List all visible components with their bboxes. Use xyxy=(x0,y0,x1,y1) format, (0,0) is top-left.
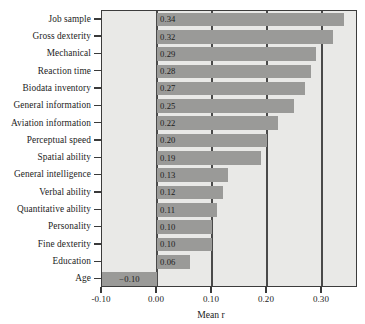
horizontal-bar-chart: Job sampleGross dexterityMechanicalReact… xyxy=(0,0,365,324)
category-tick-14: Education xyxy=(0,252,93,269)
x-tick-label: 0.10 xyxy=(203,294,219,305)
category-tick-15: Age xyxy=(0,270,93,287)
category-axis: Job sampleGross dexterityMechanicalReact… xyxy=(0,10,93,287)
x-tick-4 xyxy=(320,287,321,293)
bar-row: 0.25 xyxy=(102,98,356,115)
bar-row: 0.11 xyxy=(102,201,356,218)
category-tick-3: Reaction time xyxy=(0,62,93,79)
category-tick-10: Verbal ability xyxy=(0,183,93,200)
bar xyxy=(157,99,294,113)
bar-value-label: 0.10 xyxy=(160,238,175,250)
bar-value-label: 0.13 xyxy=(160,169,175,181)
category-tick-12: Personality xyxy=(0,218,93,235)
bar-row: 0.12 xyxy=(102,184,356,201)
category-label: Education xyxy=(52,256,93,266)
bar-value-label: 0.11 xyxy=(160,204,175,216)
bar-value-label: 0.20 xyxy=(160,134,175,146)
category-tick-4: Biodata inventory xyxy=(0,79,93,96)
x-tick-label: 0.20 xyxy=(258,294,274,305)
bar-row: 0.13 xyxy=(102,167,356,184)
bar xyxy=(157,47,316,61)
bar xyxy=(157,65,311,79)
bar xyxy=(157,30,333,44)
bar-value-label: 0.34 xyxy=(160,13,175,25)
category-tick-7: Perceptual speed xyxy=(0,131,93,148)
category-tick-8: Spatial ability xyxy=(0,149,93,166)
bar-row: 0.06 xyxy=(102,253,356,270)
category-label: Age xyxy=(75,273,93,283)
bar xyxy=(157,13,344,27)
category-label: Job sample xyxy=(48,14,93,24)
bar-row: 0.20 xyxy=(102,132,356,149)
category-label: General intelligence xyxy=(14,169,93,179)
bar-value-label: 0.19 xyxy=(160,152,175,164)
bar-value-label: 0.12 xyxy=(160,186,175,198)
category-label: Reaction time xyxy=(38,66,93,76)
bar-value-label: 0.10 xyxy=(160,221,175,233)
bar-value-label: −0.10 xyxy=(119,273,139,285)
category-label: Mechanical xyxy=(47,48,93,58)
category-tick-13: Fine dexterity xyxy=(0,235,93,252)
category-tick-2: Mechanical xyxy=(0,45,93,62)
category-tick-6: Aviation information xyxy=(0,114,93,131)
bar-row: 0.29 xyxy=(102,46,356,63)
category-label: Biodata inventory xyxy=(22,83,93,93)
category-label: Personality xyxy=(48,221,93,231)
bar-row: 0.32 xyxy=(102,28,356,45)
bar-value-label: 0.32 xyxy=(160,31,175,43)
bar-value-label: 0.28 xyxy=(160,65,175,77)
category-tick-1: Gross dexterity xyxy=(0,27,93,44)
bar xyxy=(157,82,305,96)
x-tick-3 xyxy=(265,287,266,293)
x-axis-title: Mean r xyxy=(197,309,224,321)
x-tick-label: -0.10 xyxy=(91,294,110,305)
category-label: Quantitative ability xyxy=(17,204,93,214)
category-label: Fine dexterity xyxy=(38,239,93,249)
bar-row: 0.22 xyxy=(102,115,356,132)
plot-area: 0.340.320.290.280.270.250.220.200.190.13… xyxy=(101,10,357,287)
category-label: Verbal ability xyxy=(39,187,93,197)
category-label: Spatial ability xyxy=(38,152,93,162)
bar-row: 0.27 xyxy=(102,80,356,97)
bar-value-label: 0.25 xyxy=(160,100,175,112)
bar-value-label: 0.29 xyxy=(160,48,175,60)
category-label: Aviation information xyxy=(11,118,93,128)
bar-row: 0.19 xyxy=(102,150,356,167)
bar-value-label: 0.27 xyxy=(160,82,175,94)
x-tick-label: 0.00 xyxy=(148,294,164,305)
bar-row: 0.10 xyxy=(102,236,356,253)
category-tick-9: General intelligence xyxy=(0,166,93,183)
x-axis: Mean r -0.100.000.100.200.30 xyxy=(101,287,357,323)
category-label: General information xyxy=(13,100,93,110)
category-tick-5: General information xyxy=(0,97,93,114)
bar-row: 0.34 xyxy=(102,11,356,28)
bar-row: 0.10 xyxy=(102,219,356,236)
x-tick-2 xyxy=(210,287,211,293)
bar-value-label: 0.22 xyxy=(160,117,175,129)
category-tick-0: Job sample xyxy=(0,10,93,27)
category-label: Gross dexterity xyxy=(32,31,93,41)
x-tick-0 xyxy=(100,287,101,293)
x-tick-label: 0.30 xyxy=(313,294,329,305)
bar-row: −0.10 xyxy=(102,271,356,287)
bar-row: 0.28 xyxy=(102,63,356,80)
category-tick-11: Quantitative ability xyxy=(0,200,93,217)
x-tick-1 xyxy=(155,287,156,293)
bar-value-label: 0.06 xyxy=(160,256,175,268)
category-label: Perceptual speed xyxy=(27,135,93,145)
